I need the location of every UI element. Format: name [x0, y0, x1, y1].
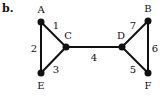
node-F: [145, 70, 152, 77]
graph-diagram: b. 1234567ACEDBF: [0, 0, 167, 96]
node-D: [119, 44, 126, 51]
edge-label: 3: [53, 64, 59, 75]
node-label: F: [145, 80, 152, 91]
edge-label: 1: [53, 20, 59, 31]
node-label: B: [144, 3, 151, 14]
node-A: [38, 19, 45, 26]
node-C: [63, 44, 70, 51]
node-label: A: [36, 4, 45, 15]
node-label: C: [64, 30, 72, 41]
node-E: [38, 70, 45, 77]
figure-label: b.: [2, 2, 14, 15]
node-label: D: [117, 30, 125, 41]
edge-label: 7: [130, 20, 136, 31]
edge-label: 2: [31, 43, 37, 54]
edge-label: 4: [91, 52, 97, 63]
edge-label: 6: [152, 43, 158, 54]
edge-label: 5: [130, 64, 136, 75]
node-B: [145, 18, 152, 25]
node-label: E: [37, 80, 44, 91]
